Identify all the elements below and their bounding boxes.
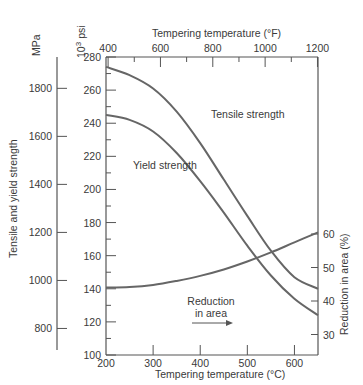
- reduction-tick-label: 50: [323, 262, 335, 274]
- psi-tick-label: 120: [83, 316, 101, 328]
- reduction-axis-title: Reduction in area (%): [338, 233, 350, 335]
- fahrenheit-tick-label: 400: [99, 42, 117, 54]
- celsius-tick-label: 600: [286, 357, 304, 369]
- reduction-axis-ticks: 30405060: [311, 228, 335, 341]
- celsius-tick-label: 200: [97, 357, 115, 369]
- mpa-tick-label: 1000: [29, 274, 53, 286]
- psi-tick-label: 180: [83, 217, 101, 229]
- celsius-axis-ticks: 200300400500600: [97, 345, 303, 369]
- celsius-axis-title: Tempering temperature (°C): [155, 368, 285, 380]
- mpa-tick-label: 1800: [29, 82, 53, 94]
- yield-strength-curve: [106, 115, 318, 315]
- fahrenheit-tick-label: 600: [152, 42, 170, 54]
- arrow-right-icon: [192, 320, 233, 326]
- psi-label: 103psi: [74, 25, 87, 58]
- psi-tick-label: 140: [83, 283, 101, 295]
- reduction-label-line2: in area: [195, 307, 227, 319]
- psi-tick-label: 200: [83, 183, 101, 195]
- fahrenheit-tick-label: 1200: [306, 42, 330, 54]
- psi-tick-label: 160: [83, 250, 101, 262]
- reduction-tick-label: 30: [323, 329, 335, 341]
- mpa-axis: 80010001200140016001800: [29, 57, 67, 350]
- psi-axis-ticks: 100120140160180200220240260280: [83, 51, 116, 361]
- tensile-strength-curve: [106, 67, 318, 289]
- reduction-tick-label: 60: [323, 228, 335, 240]
- mpa-tick-label: 800: [34, 322, 52, 334]
- fahrenheit-tick-label: 1000: [253, 42, 277, 54]
- reduction-tick-label: 40: [323, 295, 335, 307]
- mpa-tick-label: 1200: [29, 226, 53, 238]
- reduction-in-area-curve: [106, 232, 318, 287]
- fahrenheit-axis-ticks: 40060080010001200: [99, 42, 329, 67]
- strength-axis-title: Tensile and yield strength: [7, 139, 19, 258]
- fahrenheit-axis-title: Tempering temperature (°F): [152, 27, 281, 39]
- reduction-label-line1: Reduction: [187, 295, 234, 307]
- mpa-label: MPa: [30, 34, 42, 56]
- tensile-strength-label: Tensile strength: [211, 108, 285, 120]
- mpa-tick-label: 1400: [29, 178, 53, 190]
- psi-tick-label: 260: [83, 84, 101, 96]
- psi-tick-label: 240: [83, 117, 101, 129]
- psi-tick-label: 220: [83, 150, 101, 162]
- fahrenheit-tick-label: 800: [204, 42, 222, 54]
- chart-canvas: 80010001200140016001800 1001201401601802…: [0, 0, 363, 385]
- yield-strength-label: Yield strength: [133, 159, 197, 171]
- mpa-tick-label: 1600: [29, 130, 53, 142]
